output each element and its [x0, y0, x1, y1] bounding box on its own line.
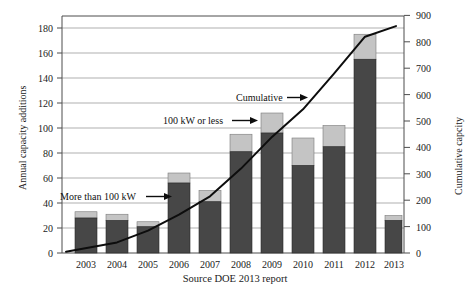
arrow-icon	[300, 94, 308, 101]
chart-container: 0 20 40 60 80 100 120 140 160 180 0	[0, 0, 474, 296]
source-note: Source DOE 2013 report	[183, 273, 288, 284]
x-tick-label: 2012	[355, 259, 375, 270]
y2-tick-label: 200	[416, 195, 431, 206]
x-tick-label: 2013	[384, 259, 404, 270]
y2-tick-label: 700	[416, 63, 431, 74]
bar-segment-light[interactable]	[323, 126, 345, 147]
x-tick-label: 2011	[324, 259, 344, 270]
y2-tick-label: 100	[416, 222, 431, 233]
arrow-icon	[250, 117, 258, 124]
y-tick-label: 120	[38, 98, 53, 109]
y2-tick-label: 900	[416, 10, 431, 21]
y-axis-title: Annual capacity additions	[17, 85, 28, 190]
x-tick-label: 2003	[76, 259, 96, 270]
bar-segment-light[interactable]	[292, 138, 314, 166]
y2-tick-label: 0	[416, 248, 421, 259]
bar-segment-dark[interactable]	[323, 147, 345, 253]
x-tick-label: 2009	[262, 259, 282, 270]
chart-svg: 0 20 40 60 80 100 120 140 160 180 0	[0, 0, 474, 296]
y-tick-label: 80	[43, 148, 53, 159]
bar-segment-dark[interactable]	[292, 166, 314, 254]
y-tick-label: 40	[43, 198, 53, 209]
bars-group	[75, 34, 402, 253]
bar-stack-2013[interactable]	[385, 216, 402, 254]
annotation-label-cumulative: Cumulative	[236, 92, 283, 103]
left-axis-ticks	[57, 28, 62, 253]
x-tick-label: 2007	[200, 259, 220, 270]
y-tick-label: 20	[43, 223, 53, 234]
y2-axis-title: Cumulative capcity	[453, 117, 464, 195]
bar-stack-2004[interactable]	[106, 214, 128, 253]
x-tick-label: 2008	[231, 259, 251, 270]
x-tick-label: 2006	[169, 259, 189, 270]
bar-stack-2010[interactable]	[292, 138, 314, 253]
annotation-more-than-100kw: More than 100 kW	[60, 191, 172, 202]
bar-segment-light[interactable]	[168, 173, 190, 183]
right-axis-tick-labels: 0 100 200 300 400 500 600 700 800 900	[416, 10, 431, 259]
bar-segment-dark[interactable]	[106, 221, 128, 254]
bar-segment-light[interactable]	[230, 134, 252, 152]
bar-stack-2012[interactable]	[354, 34, 376, 253]
annotation-cumulative: Cumulative	[236, 92, 308, 103]
y2-tick-label: 300	[416, 169, 431, 180]
bar-segment-light[interactable]	[106, 214, 128, 220]
bar-segment-dark[interactable]	[261, 133, 283, 253]
annotation-label-more-than-100kw: More than 100 kW	[60, 191, 136, 202]
x-tick-label: 2004	[107, 259, 127, 270]
bar-stack-2008[interactable]	[230, 134, 252, 253]
bar-stack-2011[interactable]	[323, 126, 345, 254]
bar-segment-dark[interactable]	[385, 221, 402, 254]
bar-segment-light[interactable]	[75, 212, 97, 218]
right-axis-ticks	[404, 15, 410, 253]
left-axis-tick-labels: 0 20 40 60 80 100 120 140 160 180	[38, 23, 53, 259]
annotation-100kw-or-less: 100 kW or less	[163, 115, 258, 126]
annotation-label-100kw-or-less: 100 kW or less	[163, 115, 223, 126]
y-tick-label: 160	[38, 48, 53, 59]
y-tick-label: 60	[43, 173, 53, 184]
y-tick-label: 100	[38, 123, 53, 134]
y2-tick-label: 500	[416, 116, 431, 127]
y-tick-label: 180	[38, 23, 53, 34]
y-tick-label: 140	[38, 73, 53, 84]
bar-segment-dark[interactable]	[230, 152, 252, 253]
x-axis-tick-labels: 2003 2004 2005 2006 2007 2008 2009 2010 …	[76, 259, 404, 270]
bar-stack-2006[interactable]	[168, 173, 190, 253]
y2-tick-label: 800	[416, 37, 431, 48]
y2-tick-label: 400	[416, 142, 431, 153]
y2-tick-label: 600	[416, 90, 431, 101]
bar-segment-light[interactable]	[385, 216, 402, 221]
bar-stack-2009[interactable]	[261, 113, 283, 253]
bar-segment-dark[interactable]	[199, 202, 221, 253]
bar-segment-dark[interactable]	[354, 59, 376, 253]
x-tick-label: 2010	[293, 259, 313, 270]
x-tick-label: 2005	[138, 259, 158, 270]
y-tick-label: 0	[48, 248, 53, 259]
